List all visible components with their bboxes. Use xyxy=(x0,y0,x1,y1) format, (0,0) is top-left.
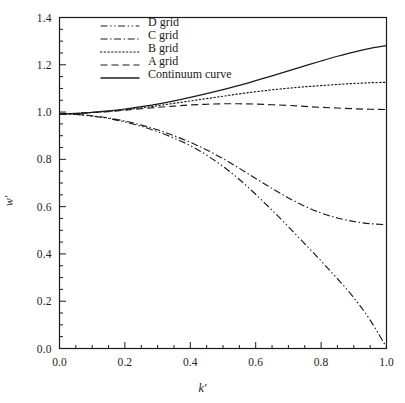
series-line-c-grid xyxy=(60,114,387,225)
y-axis-title-text: w' xyxy=(2,196,16,207)
series-line-d-grid xyxy=(60,114,387,347)
series-paths xyxy=(60,46,387,348)
y-tick-label: 0.8 xyxy=(14,153,52,165)
legend-item-d-grid[interactable]: D grid xyxy=(100,16,290,29)
legend-item-label: D grid xyxy=(148,16,179,29)
x-tick-label: 0.6 xyxy=(248,356,263,368)
y-tick-label: 1.0 xyxy=(14,106,52,118)
legend-line-sample xyxy=(100,69,140,79)
legend-item-c-grid[interactable]: C grid xyxy=(100,29,290,42)
y-tick-label: 0.2 xyxy=(14,295,52,307)
legend-line-sample xyxy=(100,56,140,66)
legend-line-sample xyxy=(100,17,140,27)
legend-item-continuum-curve[interactable]: Continuum curve xyxy=(100,68,290,81)
series-line-a-grid xyxy=(60,104,387,114)
legend-item-a-grid[interactable]: A grid xyxy=(100,55,290,68)
legend-item-b-grid[interactable]: B grid xyxy=(100,42,290,55)
x-tick-label: 0.0 xyxy=(52,356,67,368)
y-tick-label: 0.0 xyxy=(14,343,52,355)
x-axis-title-text: k' xyxy=(199,381,207,395)
legend-item-label: B grid xyxy=(148,42,178,55)
x-tick-label: 0.2 xyxy=(118,356,133,368)
y-tick-label: 1.2 xyxy=(14,59,52,71)
y-axis-title: w' xyxy=(2,196,17,207)
series-line-b-grid xyxy=(60,82,387,114)
y-tick-label: 1.4 xyxy=(14,12,52,24)
legend-item-label: A grid xyxy=(148,55,178,68)
legend-line-sample xyxy=(100,43,140,53)
x-axis-title: k' xyxy=(199,381,207,396)
legend-line-sample xyxy=(100,30,140,40)
legend-item-label: C grid xyxy=(148,29,178,42)
figure-container: 0.00.20.40.60.81.01.21.40.00.20.40.60.81… xyxy=(0,0,405,403)
x-tick-label: 0.4 xyxy=(183,356,198,368)
x-tick-label: 0.8 xyxy=(314,356,329,368)
x-tick-label: 1.0 xyxy=(379,356,394,368)
y-tick-label: 0.4 xyxy=(14,248,52,260)
legend: D gridC gridB gridA gridContinuum curve xyxy=(100,16,290,81)
legend-item-label: Continuum curve xyxy=(148,68,232,81)
y-tick-label: 0.6 xyxy=(14,201,52,213)
